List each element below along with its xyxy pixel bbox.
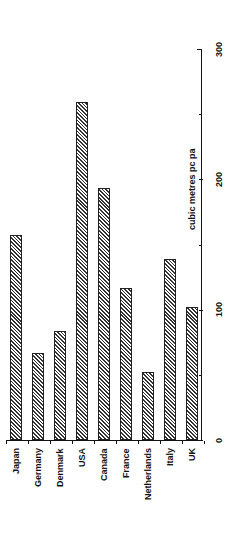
bar-netherlands: [142, 372, 154, 440]
bar-japan: [10, 235, 22, 440]
category-label: Denmark: [55, 448, 65, 487]
category-label: USA: [77, 448, 87, 467]
bar-canada: [98, 188, 110, 440]
bar-usa: [76, 102, 88, 440]
category-label: France: [121, 448, 131, 478]
y-tick-label: 300: [214, 41, 224, 56]
y-tick: [199, 310, 203, 311]
y-tick-label: 200: [214, 172, 224, 187]
bar-chart: JapanGermanyDenmarkUSACanadaFranceNether…: [0, 0, 232, 545]
bar-france: [120, 288, 132, 440]
y-tick: [197, 49, 201, 50]
x-tick: [72, 441, 73, 444]
category-label: Italy: [165, 448, 175, 466]
x-tick: [28, 441, 29, 444]
x-tick: [182, 441, 183, 444]
x-tick: [204, 441, 205, 444]
x-axis-line: [6, 440, 202, 441]
x-tick: [160, 441, 161, 444]
category-label: UK: [187, 448, 197, 461]
category-label: Netherlands: [143, 448, 153, 500]
category-label: Japan: [11, 448, 21, 474]
y-tick: [199, 245, 202, 246]
category-label: Canada: [99, 448, 109, 481]
x-tick: [50, 441, 51, 444]
x-tick: [138, 441, 139, 444]
bar-uk: [186, 307, 198, 440]
y-tick: [199, 179, 203, 180]
y-tick: [199, 375, 202, 376]
x-tick: [94, 441, 95, 444]
y-tick-label: 0: [214, 437, 224, 442]
y-tick: [199, 440, 203, 441]
y-tick: [199, 114, 202, 115]
category-label: Germany: [33, 448, 43, 487]
bar-denmark: [54, 331, 66, 440]
x-tick: [6, 441, 7, 444]
y-axis-title: cubic metres pc pa: [187, 148, 197, 230]
y-tick-label: 100: [214, 302, 224, 317]
bar-italy: [164, 259, 176, 440]
bar-germany: [32, 353, 44, 440]
x-tick: [116, 441, 117, 444]
